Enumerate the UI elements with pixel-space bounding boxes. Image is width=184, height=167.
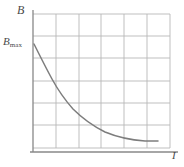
y-max-annotation: Bmax <box>3 36 22 47</box>
y-axis-label: B <box>17 4 24 16</box>
y-max-subscript: max <box>10 41 22 49</box>
figure-container: B Bmax I <box>0 0 184 167</box>
decay-curve <box>34 44 158 141</box>
data-curve <box>34 44 158 141</box>
y-max-base: B <box>3 35 10 47</box>
x-axis-label: I <box>172 150 176 161</box>
plot-canvas <box>0 0 184 167</box>
